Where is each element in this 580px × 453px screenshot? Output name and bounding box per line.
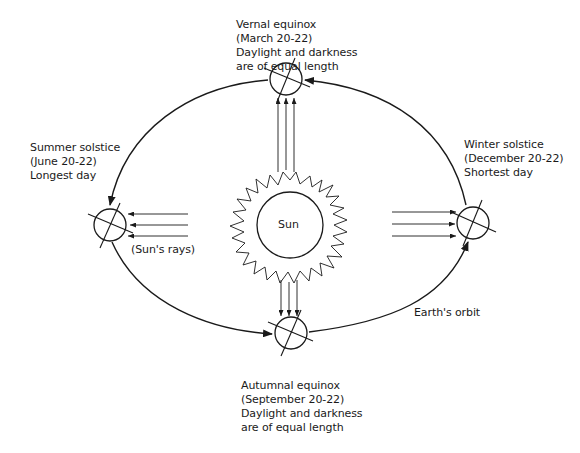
vernal-desc-2: are of equal length: [236, 60, 358, 74]
vernal-title: Vernal equinox: [236, 18, 358, 32]
autumnal-title: Autumnal equinox: [241, 379, 363, 393]
earth-icon-winter: [451, 200, 496, 246]
earth-icon-summer: [88, 203, 133, 248]
autumnal-desc-1: Daylight and darkness: [241, 407, 363, 421]
winter-title: Winter solstice: [464, 138, 563, 152]
rays-label: (Sun's rays): [131, 243, 195, 257]
winter-desc: Shortest day: [464, 166, 563, 180]
label-summer-solstice: Summer solstice (June 20-22) Longest day: [30, 141, 120, 183]
label-autumnal-equinox: Autumnal equinox (September 20-22) Dayli…: [241, 379, 363, 435]
vernal-dates: (March 20-22): [236, 32, 358, 46]
autumnal-dates: (September 20-22): [241, 393, 363, 407]
orbit-label: Earth's orbit: [414, 306, 480, 320]
orbit-segment-top-left: [110, 80, 268, 205]
label-winter-solstice: Winter solstice (December 20-22) Shortes…: [464, 138, 563, 180]
vernal-desc-1: Daylight and darkness: [236, 46, 358, 60]
sun-label: Sun: [278, 218, 299, 231]
sun-rays: [128, 98, 456, 316]
winter-dates: (December 20-22): [464, 152, 563, 166]
summer-title: Summer solstice: [30, 141, 120, 155]
earth-icon-autumnal: [268, 310, 313, 356]
autumnal-desc-2: are of equal length: [241, 421, 363, 435]
label-vernal-equinox: Vernal equinox (March 20-22) Daylight an…: [236, 18, 358, 74]
orbit-segment-right-top: [305, 80, 466, 205]
summer-desc: Longest day: [30, 169, 120, 183]
summer-dates: (June 20-22): [30, 155, 120, 169]
